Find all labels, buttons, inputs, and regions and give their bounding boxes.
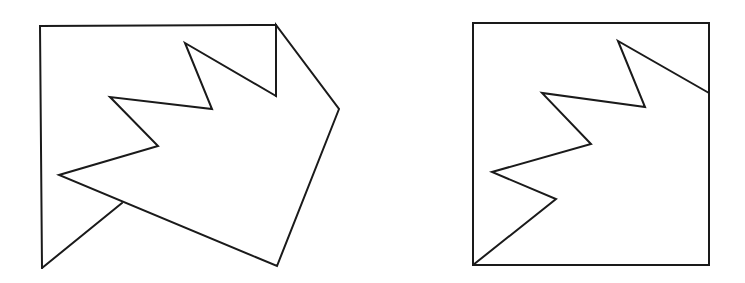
right-figure bbox=[473, 23, 709, 265]
left-figure bbox=[40, 25, 339, 268]
left-zigzag-polygon bbox=[59, 25, 339, 266]
left-strut bbox=[42, 203, 122, 268]
right-zigzag-line bbox=[473, 41, 709, 265]
diagram-canvas bbox=[0, 0, 745, 283]
diagram-svg bbox=[0, 0, 745, 283]
